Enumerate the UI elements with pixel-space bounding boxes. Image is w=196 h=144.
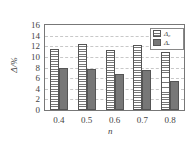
y-tick-label: 8 — [20, 64, 40, 73]
bar-delta0-0.5 — [78, 44, 87, 110]
bar-deltae-0.4 — [59, 68, 68, 111]
y-tick-label: 12 — [20, 42, 40, 51]
x-tick-label: 0.8 — [158, 115, 182, 125]
y-tick-label: 10 — [20, 53, 40, 62]
y-tick-label: 6 — [20, 74, 40, 83]
bar-delta0-0.8 — [161, 52, 170, 110]
solid-swatch-icon — [153, 39, 161, 46]
bar-deltae-0.5 — [87, 69, 96, 110]
y-tick-label: 0 — [20, 106, 40, 115]
x-tick-label: 0.4 — [47, 115, 71, 125]
bar-deltae-0.8 — [170, 81, 179, 110]
bar-delta0-0.4 — [50, 49, 59, 110]
y-tick-label: 4 — [20, 85, 40, 94]
x-axis-label: n — [108, 126, 113, 136]
legend-item-delta0: Δ₀ — [151, 29, 183, 38]
bar-delta0-0.6 — [106, 50, 115, 110]
striped-swatch-icon — [153, 30, 161, 37]
bar-deltae-0.7 — [142, 70, 151, 110]
x-tick-label: 0.6 — [103, 115, 127, 125]
x-tick-label: 0.7 — [130, 115, 154, 125]
bar-delta0-0.7 — [133, 45, 142, 110]
legend-item-deltae: Δₑ — [151, 38, 183, 47]
bar-deltae-0.6 — [115, 74, 124, 110]
y-tick-label: 2 — [20, 95, 40, 104]
x-tick-label: 0.5 — [75, 115, 99, 125]
y-tick-label: 14 — [20, 32, 40, 41]
legend: Δ₀ Δₑ — [150, 28, 184, 50]
y-axis-label: Δ/% — [9, 57, 19, 72]
y-tick-label: 16 — [20, 21, 40, 30]
